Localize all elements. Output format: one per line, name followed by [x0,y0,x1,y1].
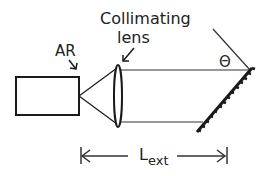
collimating-lens [114,65,122,127]
ar-label: AR [55,42,76,60]
lens-label-line1: Collimating [100,9,191,28]
laser-diode-box [16,77,79,115]
external-cavity-diagram: Θ AR Collimating lens Lext [0,0,276,176]
ar-arrow-icon [69,60,77,69]
emission-cone [79,68,117,124]
collimated-beam [121,70,250,122]
angle-label: Θ [219,53,231,71]
lens-label-line2: lens [117,28,150,47]
length-label: Lext [139,145,168,168]
diffraction-grating [197,68,255,132]
lens-arrow-icon [123,48,134,61]
